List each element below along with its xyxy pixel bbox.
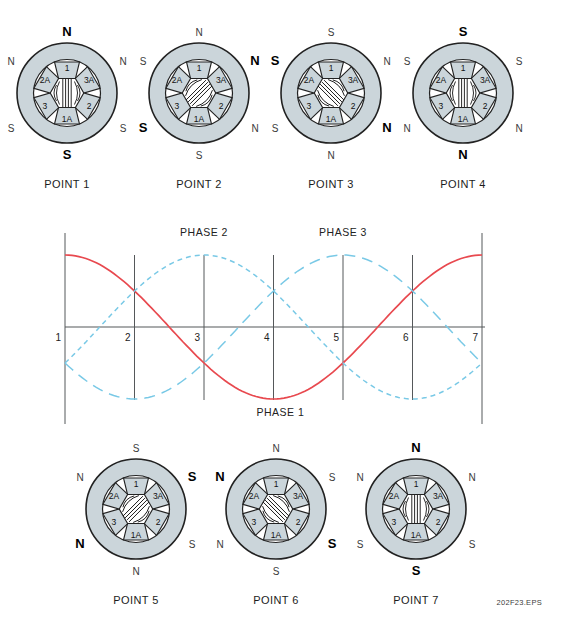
magnet-label-top-left: N bbox=[76, 472, 83, 483]
point-label: POINT 3 bbox=[259, 178, 403, 190]
pole-label: 2 bbox=[436, 517, 441, 527]
pole-label: 2 bbox=[351, 101, 356, 111]
stator-diagram: 13A21A32ASSNSNN bbox=[259, 21, 403, 165]
pole-label: 1 bbox=[274, 479, 279, 489]
magnet-label-bottom: N bbox=[458, 147, 467, 162]
pole-label: 2A bbox=[249, 491, 260, 501]
magnet-label-bottom-left: S bbox=[139, 120, 148, 135]
magnet-label-bottom-right: S bbox=[189, 539, 196, 550]
magnet-label-bottom-left: S bbox=[8, 123, 15, 134]
pole-label: 3 bbox=[252, 517, 257, 527]
phase-waveform-chart: 1234567PHASE 2PHASE 3PHASE 1 bbox=[28, 212, 514, 438]
magnet-label-top: S bbox=[328, 27, 335, 38]
point-label: POINT 5 bbox=[64, 594, 208, 606]
pole-label: 1 bbox=[461, 63, 466, 73]
tick-label: 6 bbox=[403, 332, 409, 343]
stator-diagram: 13A21A32ANSNSNS bbox=[127, 21, 271, 165]
magnet-label-top-right: N bbox=[383, 56, 390, 67]
point-4-block: 13A21A32ASSSNNNPOINT 4 bbox=[391, 21, 535, 201]
pole-label: 3 bbox=[307, 101, 312, 111]
magnet-label-top: N bbox=[62, 24, 71, 39]
point-3-block: 13A21A32ASSNSNNPOINT 3 bbox=[259, 21, 403, 201]
pole-label: 2A bbox=[40, 75, 51, 85]
pole-label: 1A bbox=[458, 114, 469, 124]
figure-file-label: 202F23.EPS bbox=[496, 598, 542, 607]
chart-svg: 1234567PHASE 2PHASE 3PHASE 1 bbox=[28, 212, 514, 438]
magnet-label-top-left: N bbox=[356, 472, 363, 483]
stator-diagram: 13A21A32ASNSNSN bbox=[64, 437, 208, 581]
magnet-label-bottom-left: S bbox=[272, 123, 279, 134]
pole-label: 3 bbox=[392, 517, 397, 527]
magnet-label-top: S bbox=[459, 24, 468, 39]
phase-annotation: PHASE 3 bbox=[319, 226, 367, 238]
tick-label: 4 bbox=[264, 332, 270, 343]
magnet-label-bottom-right: N bbox=[251, 123, 258, 134]
pole-label: 2A bbox=[389, 491, 400, 501]
phase-annotation: PHASE 1 bbox=[256, 406, 304, 418]
stator-diagram: 13A21A32ANNSNSS bbox=[204, 437, 348, 581]
magnet-label-bottom: N bbox=[132, 566, 139, 577]
rotating-field-figure: 13A21A32ANNNSSSPOINT 113A21A32ANSNSNSPOI… bbox=[0, 0, 566, 628]
point-label: POINT 2 bbox=[127, 178, 271, 190]
pole-label: 3 bbox=[175, 101, 180, 111]
pole-label: 3 bbox=[112, 517, 117, 527]
tick-label: 7 bbox=[472, 332, 478, 343]
pole-label: 1 bbox=[329, 63, 334, 73]
point-label: POINT 7 bbox=[344, 594, 488, 606]
pole-label: 3A bbox=[84, 75, 95, 85]
pole-label: 2A bbox=[436, 75, 447, 85]
pole-label: 1A bbox=[411, 530, 422, 540]
magnet-label-bottom-left: N bbox=[216, 539, 223, 550]
pole-label: 1 bbox=[414, 479, 419, 489]
pole-label: 3A bbox=[216, 75, 227, 85]
magnet-label-top-right: N bbox=[468, 472, 475, 483]
pole-label: 2 bbox=[296, 517, 301, 527]
magnet-label-top-right: N bbox=[119, 56, 126, 67]
point-6-block: 13A21A32ANNSNSSPOINT 6 bbox=[204, 437, 348, 617]
pole-label: 2A bbox=[172, 75, 183, 85]
point-5-block: 13A21A32ASNSNSNPOINT 5 bbox=[64, 437, 208, 617]
magnet-label-top-right: S bbox=[188, 469, 197, 484]
pole-label: 2 bbox=[87, 101, 92, 111]
pole-label: 1 bbox=[134, 479, 139, 489]
pole-label: 2A bbox=[109, 491, 120, 501]
point-7-block: 13A21A32ANNNSSSPOINT 7 bbox=[344, 437, 488, 617]
point-label: POINT 4 bbox=[391, 178, 535, 190]
tick-label: 3 bbox=[194, 332, 200, 343]
magnet-label-bottom-right: S bbox=[469, 539, 476, 550]
pole-label: 3A bbox=[433, 491, 444, 501]
magnet-label-bottom-left: S bbox=[357, 539, 364, 550]
magnet-label-top-left: N bbox=[215, 469, 224, 484]
magnet-label-bottom-right: S bbox=[328, 536, 337, 551]
pole-label: 3A bbox=[153, 491, 164, 501]
magnet-label-bottom: S bbox=[63, 147, 72, 162]
pole-label: 1 bbox=[197, 63, 202, 73]
magnet-label-bottom: N bbox=[327, 150, 334, 161]
phase-annotation: PHASE 2 bbox=[180, 226, 228, 238]
magnet-label-top-right: S bbox=[329, 472, 336, 483]
pole-label: 3 bbox=[439, 101, 444, 111]
magnet-label-bottom-left: N bbox=[403, 123, 410, 134]
magnet-label-top-left: S bbox=[404, 56, 411, 67]
pole-label: 2 bbox=[219, 101, 224, 111]
pole-label: 2 bbox=[156, 517, 161, 527]
magnet-label-top: N bbox=[195, 27, 202, 38]
pole-label: 3A bbox=[348, 75, 359, 85]
magnet-label-bottom: S bbox=[196, 150, 203, 161]
magnet-label-bottom-left: N bbox=[75, 536, 84, 551]
point-label: POINT 1 bbox=[0, 178, 139, 190]
magnet-label-top-left: N bbox=[7, 56, 14, 67]
magnet-label-bottom-right: N bbox=[515, 123, 522, 134]
pole-label: 1A bbox=[326, 114, 337, 124]
pole-label: 2 bbox=[483, 101, 488, 111]
pole-label: 3 bbox=[43, 101, 48, 111]
magnet-label-top: N bbox=[272, 443, 279, 454]
point-1-block: 13A21A32ANNNSSSPOINT 1 bbox=[0, 21, 139, 201]
stator-diagram: 13A21A32ANNNSSS bbox=[344, 437, 488, 581]
pole-label: 2A bbox=[304, 75, 315, 85]
pole-label: 1A bbox=[271, 530, 282, 540]
magnet-label-bottom: S bbox=[273, 566, 280, 577]
magnet-label-top-right: S bbox=[516, 56, 523, 67]
pole-label: 3A bbox=[480, 75, 491, 85]
stator-diagram: 13A21A32ANNNSSS bbox=[0, 21, 139, 165]
